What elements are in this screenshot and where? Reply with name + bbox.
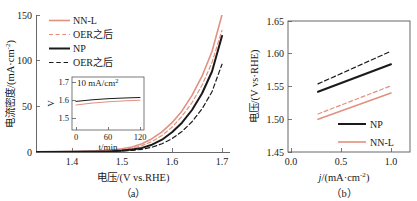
panel-a-svg: 0 50 100 150 1.4 1.5 1.6 1.7 电流密度/(mA·cm… bbox=[0, 0, 232, 201]
panel-a-ytick-150: 150 bbox=[17, 10, 32, 21]
panel-b-legend: NP NN-L bbox=[338, 119, 394, 148]
panel-b-ytick-1.50: 1.50 bbox=[267, 114, 285, 125]
panel-b-curve-nn-l-after bbox=[318, 86, 391, 114]
panel-b-curve-nn-l bbox=[318, 93, 391, 119]
panel-a-legend: NN-L OER之后 NP OER之后 bbox=[49, 15, 113, 68]
panel-b-legend-label-np: NP bbox=[370, 119, 383, 130]
panel-a-legend-label-np-after: OER之后 bbox=[73, 56, 113, 68]
panel-a-inset-xtick-0: 0 bbox=[74, 132, 78, 142]
panel-a: 0 50 100 150 1.4 1.5 1.6 1.7 电流密度/(mA·cm… bbox=[0, 0, 232, 201]
panel-a-inset-x-axis-title: t/min bbox=[98, 142, 118, 152]
panel-a-legend-label-np: NP bbox=[73, 43, 86, 54]
panel-a-ytick-0: 0 bbox=[27, 147, 32, 158]
panel-a-inset-annotation-main: 10 mA/cm bbox=[77, 78, 115, 88]
panel-a-legend-label-nn-l: NN-L bbox=[73, 15, 97, 26]
panel-a-xtick-1.5: 1.5 bbox=[116, 156, 129, 167]
panel-a-inset-ytick-1.7: 1.7 bbox=[58, 77, 69, 87]
panel-b-xtick-0.0: 0.0 bbox=[285, 156, 298, 167]
panel-a-inset: 1.7 1.6 1.5 0 60 120 V t/min 10 mA/cm2 bbox=[46, 77, 146, 153]
panel-a-inset-annotation-sup: 2 bbox=[115, 77, 118, 84]
panel-a-xtick-1.4: 1.4 bbox=[66, 156, 79, 167]
panel-b-ytick-1.60: 1.60 bbox=[267, 48, 285, 59]
panel-b-legend-label-nn-l: NN-L bbox=[370, 137, 394, 148]
panel-a-inset-ytick-1.5: 1.5 bbox=[58, 113, 69, 123]
panel-a-caption: （a） bbox=[121, 188, 146, 199]
panel-a-inset-xtick-120: 120 bbox=[134, 132, 147, 142]
panel-a-y-axis-title-tail: ) bbox=[5, 40, 17, 44]
panel-b-x-axis-title-main: /(mA·cm bbox=[322, 172, 361, 184]
panel-b-ytick-1.45: 1.45 bbox=[267, 147, 285, 158]
panel-b-x-axis-title: j/(mA·cm-2) bbox=[317, 171, 370, 184]
panel-b-ytick-1.55: 1.55 bbox=[267, 81, 285, 92]
panel-b-x-axis-title-tail: ) bbox=[366, 172, 370, 184]
panel-a-y-axis-title-main: 电流密度/(mA·cm bbox=[4, 49, 17, 128]
panel-a-ytick-50: 50 bbox=[22, 101, 32, 112]
panel-b-xtick-0.5: 0.5 bbox=[335, 156, 348, 167]
panel-a-inset-y-axis-title: V bbox=[46, 100, 56, 107]
panel-a-legend-label-nn-l-after: OER之后 bbox=[73, 28, 113, 40]
panel-a-inset-xtick-60: 60 bbox=[104, 132, 113, 142]
panel-b-axes bbox=[288, 21, 410, 152]
panel-b-ytick-1.65: 1.65 bbox=[267, 16, 285, 27]
panel-b-curve-np bbox=[318, 64, 391, 92]
panel-b-y-axis-title: 电压/(V vs·RHE) bbox=[248, 49, 261, 123]
panel-a-inset-annotation: 10 mA/cm2 bbox=[77, 77, 119, 89]
panel-a-y-axis-title: 电流密度/(mA·cm-2) bbox=[4, 40, 17, 128]
panel-a-xtick-1.7: 1.7 bbox=[216, 156, 229, 167]
panel-b-svg: 1.65 1.60 1.55 1.50 1.45 0.0 0.5 1.0 电压/… bbox=[232, 0, 417, 201]
panel-b-caption: （b） bbox=[331, 188, 356, 199]
panel-b-xtick-1.0: 1.0 bbox=[385, 156, 398, 167]
panel-a-x-axis-title: 电压/(V vs.RHE) bbox=[97, 171, 170, 184]
panel-a-xtick-1.6: 1.6 bbox=[166, 156, 179, 167]
panel-b: 1.65 1.60 1.55 1.50 1.45 0.0 0.5 1.0 电压/… bbox=[232, 0, 417, 201]
panel-a-ytick-100: 100 bbox=[17, 55, 32, 66]
figure-container: 0 50 100 150 1.4 1.5 1.6 1.7 电流密度/(mA·cm… bbox=[0, 0, 417, 201]
panel-a-inset-ytick-1.6: 1.6 bbox=[58, 95, 69, 105]
panel-b-curves bbox=[318, 51, 391, 119]
